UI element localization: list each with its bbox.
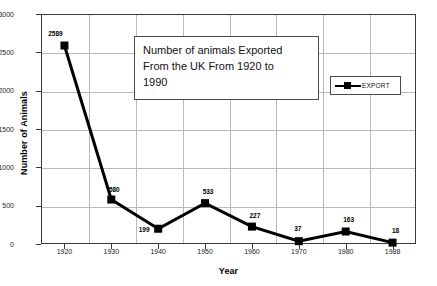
data-point-label: 580 xyxy=(94,186,134,193)
data-point-marker xyxy=(389,239,397,247)
x-tick-label: 1980 xyxy=(324,248,368,255)
y-tick-label: 2000 xyxy=(0,87,14,94)
y-axis-title: Number of Animals xyxy=(19,53,29,213)
data-point-label: 37 xyxy=(278,225,318,232)
data-point-label: 199 xyxy=(124,226,164,233)
y-tick-label: 1500 xyxy=(0,126,14,133)
y-tick-label: 2500 xyxy=(0,49,14,56)
x-tick-label: 1960 xyxy=(230,248,274,255)
y-tick-label: 0 xyxy=(0,241,14,248)
x-tick-label: 1920 xyxy=(42,248,86,255)
chart-title-line-1: Number of animals Exported xyxy=(143,42,311,58)
square-marker-icon xyxy=(335,81,361,91)
data-point-marker xyxy=(248,223,256,231)
x-tick-label: 1988 xyxy=(371,248,415,255)
y-tick-mark xyxy=(36,244,41,245)
data-point-marker xyxy=(295,237,303,245)
data-point-label: 2589 xyxy=(35,30,75,37)
chart-title-line-3: 1990 xyxy=(143,74,311,90)
y-tick-label: 3000 xyxy=(0,11,14,18)
x-tick-label: 1970 xyxy=(277,248,321,255)
data-point-label: 533 xyxy=(188,188,228,195)
x-tick-label: 1940 xyxy=(136,248,180,255)
legend-label-export: EXPORT xyxy=(362,82,390,89)
x-tick-label: 1930 xyxy=(89,248,133,255)
data-point-marker xyxy=(342,228,350,236)
data-point-label: 227 xyxy=(235,212,275,219)
legend: EXPORT xyxy=(330,76,401,95)
y-tick-label: 500 xyxy=(0,202,14,209)
x-axis-title: Year xyxy=(41,266,416,276)
data-point-label: 18 xyxy=(376,227,416,234)
data-point-marker xyxy=(201,199,209,207)
y-tick-label: 1000 xyxy=(0,164,14,171)
data-point-marker xyxy=(60,42,68,50)
data-point-marker xyxy=(107,196,115,204)
data-point-label: 163 xyxy=(329,216,369,223)
chart-title-box: Number of animals Exported From the UK F… xyxy=(134,36,319,100)
chart-title-line-2: From the UK From 1920 to xyxy=(143,58,311,74)
x-tick-label: 1950 xyxy=(183,248,227,255)
line-chart: Number of Animals Year 05001000150020002… xyxy=(0,0,437,286)
